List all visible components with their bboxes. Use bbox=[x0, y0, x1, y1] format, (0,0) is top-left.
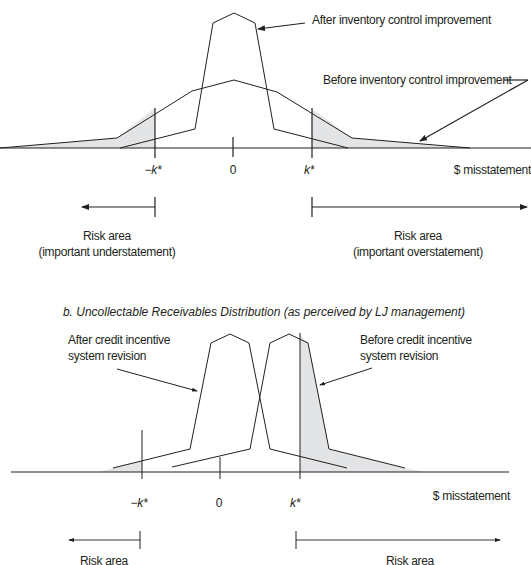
risk-right-title-a: Risk area bbox=[394, 229, 442, 243]
neg-k-label-a: −k* bbox=[145, 163, 162, 177]
axis-unit-label-a: $ misstatement bbox=[454, 163, 531, 177]
risk-left-title-b: Risk area bbox=[80, 554, 128, 565]
after-annotation-b-line2: system revision bbox=[68, 349, 146, 363]
axis-unit-label-b: $ misstatement bbox=[433, 489, 510, 503]
neg-k-label-b: −k* bbox=[131, 496, 148, 510]
risk-right-subtitle-a: (important overstatement) bbox=[353, 245, 483, 259]
after-annotation-a: After inventory control improvement bbox=[312, 13, 491, 27]
zero-label-b: 0 bbox=[216, 496, 222, 510]
panel-b-chart bbox=[11, 333, 509, 549]
pos-k-label-b: k* bbox=[290, 496, 300, 510]
after-arrow-b bbox=[117, 369, 197, 391]
panel-b-title: b. Uncollectable Receivables Distributio… bbox=[63, 305, 465, 319]
after-arrow-a bbox=[258, 23, 305, 29]
pos-k-label-a: k* bbox=[304, 163, 314, 177]
risk-left-title-a: Risk area bbox=[83, 229, 131, 243]
zero-label-a: 0 bbox=[230, 163, 236, 177]
before-arrow-b bbox=[320, 368, 372, 385]
before-curve-a bbox=[0, 80, 470, 148]
before-annotation-a: Before inventory control improvement bbox=[323, 73, 512, 87]
panel-a-chart bbox=[0, 13, 531, 217]
risk-left-subtitle-a: (important understatement) bbox=[39, 245, 176, 259]
before-arrow-a bbox=[420, 80, 528, 141]
before-annotation-b-line2: system revision bbox=[360, 349, 438, 363]
risk-right-title-b: Risk area bbox=[386, 554, 434, 565]
risk-fill-left-a bbox=[0, 108, 155, 148]
after-annotation-b-line1: After credit incentive bbox=[68, 333, 170, 347]
before-annotation-b-line1: Before credit incentive bbox=[360, 333, 472, 347]
